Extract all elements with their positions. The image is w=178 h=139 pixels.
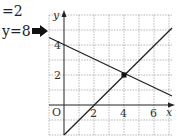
x-tick-6: 6 <box>150 107 157 120</box>
y-axis-arrow-icon <box>62 10 67 17</box>
y-tick-2: 2 <box>54 69 61 82</box>
y-axis-label: y <box>52 9 60 22</box>
intersection-point <box>122 73 127 78</box>
origin-label: O <box>52 106 61 119</box>
x-tick-4: 4 <box>120 107 127 120</box>
x-axis-label: x <box>166 106 173 119</box>
coordinate-graph: y x O 2 4 6 2 4 <box>0 0 178 139</box>
